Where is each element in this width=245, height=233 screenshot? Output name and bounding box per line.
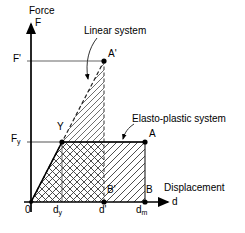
y-axis-symbol-label: F: [35, 18, 41, 28]
x-tick-dy-sub: y: [59, 209, 63, 216]
origin-label: 0: [25, 205, 31, 215]
linear-system-leader: [87, 38, 97, 79]
point-A-label: A: [149, 129, 156, 139]
x-tick-d-prime-label: d': [99, 205, 106, 215]
x-tick-dy-base: d: [53, 204, 59, 215]
y-tick-fy-sub: y: [17, 138, 21, 145]
force-displacement-diagram: Force F F' Fy 0 dy d' dm Displacement d …: [0, 0, 245, 233]
y-tick-f-prime-label: F': [13, 54, 21, 64]
point-B-marker: [142, 199, 147, 204]
point-A-prime-marker: [101, 58, 106, 63]
point-Y-marker: [59, 139, 64, 144]
elastoplastic-energy-left-region: [31, 142, 104, 202]
elasto-plastic-system-leader: [123, 124, 134, 139]
point-Y-label: Y: [57, 122, 64, 132]
x-tick-dm-sub: m: [142, 209, 148, 216]
point-A-marker: [142, 139, 147, 144]
x-tick-dy-label: dy: [53, 205, 62, 215]
x-tick-dm-base: d: [136, 204, 142, 215]
linear-system-annotation-label: Linear system: [84, 26, 146, 36]
elasto-plastic-system-annotation-label: Elasto-plastic system: [132, 114, 226, 124]
y-tick-fy-label: Fy: [11, 134, 21, 144]
point-B-prime-label: B': [107, 185, 116, 195]
point-A-prime-label: A': [108, 49, 117, 59]
x-axis-name-label: Displacement: [164, 183, 225, 193]
x-axis-symbol-label: d: [172, 197, 178, 207]
point-B-label: B: [146, 185, 153, 195]
x-tick-dm-label: dm: [136, 205, 147, 215]
y-axis-name-label: Force: [29, 6, 55, 16]
